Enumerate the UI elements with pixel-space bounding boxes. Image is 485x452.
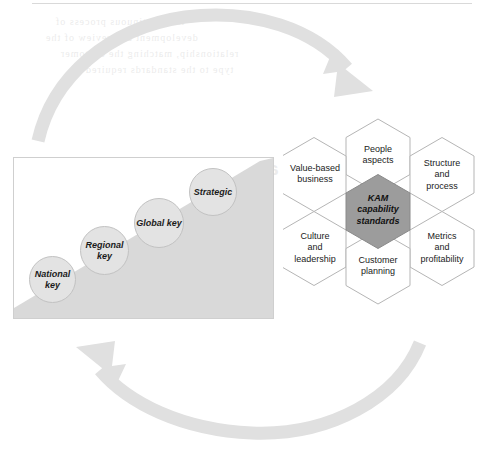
hexagon-kam-capability-standards [346, 175, 410, 249]
clockwise-arrow-bottom-icon [76, 341, 420, 433]
hexagon-structure-and-process [410, 138, 474, 212]
customer-type-label: Strategic [194, 187, 233, 197]
customer-type-label: Regional key [81, 240, 128, 261]
customer-type-label: Global key [136, 218, 182, 228]
customer-type-bubble-strategic[interactable]: Strategic [189, 168, 237, 216]
customer-type-bubble-national[interactable]: National key [29, 256, 76, 303]
hexagon-value-based-business [283, 138, 346, 212]
customer-types-panel: National key Regional key Global key Str… [13, 157, 274, 319]
customer-type-bubble-global[interactable]: Global key [134, 198, 184, 248]
customer-type-label: National key [30, 269, 75, 290]
customer-type-bubble-regional[interactable]: Regional key [80, 226, 129, 275]
hexagon-metrics-and-profitability [410, 212, 474, 286]
hexagon-culture-and-leadership [283, 212, 346, 286]
kam-capability-hexagon-cluster: People aspects Structure and process Met… [283, 118, 485, 323]
kam-cycle-figure: is a continuous process of development a… [0, 0, 485, 452]
hexagon-shapes [283, 118, 485, 323]
